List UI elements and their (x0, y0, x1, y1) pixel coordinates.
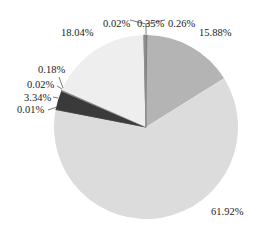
slice-label: 0.02% (27, 79, 54, 90)
pie-chart: 0.02%0.35%0.26%15.88%18.04%0.18%0.02%3.3… (0, 0, 259, 235)
slice-label: 18.04% (61, 27, 94, 38)
slice-label: 3.34% (24, 92, 51, 103)
slice-label: 0.18% (38, 64, 65, 75)
slice-label: 0.02% (103, 18, 130, 29)
leader-line (53, 97, 58, 98)
leader-line (57, 86, 62, 89)
leader-line (59, 77, 63, 88)
pie-slices (54, 35, 238, 219)
slice-label: 15.88% (199, 27, 232, 38)
slice-label: 0.26% (168, 18, 195, 29)
slice-label: 0.35% (137, 18, 164, 29)
slice-label: 61.92% (211, 206, 244, 217)
slice-label: 0.01% (17, 104, 44, 115)
